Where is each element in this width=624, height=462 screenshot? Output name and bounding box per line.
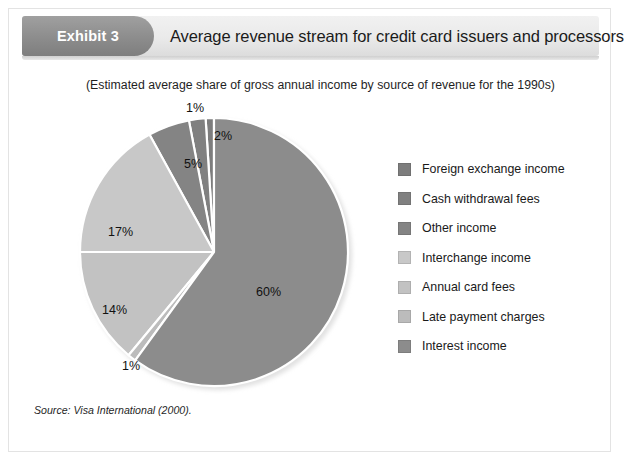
legend-item-label: Interchange income [422,251,531,265]
legend-swatch-icon [398,222,411,235]
legend-item[interactable]: Interchange income [398,250,565,266]
chart-legend: Foreign exchange incomeCash withdrawal f… [398,161,565,368]
pie-slice-label: 5% [184,157,202,171]
exhibit-badge-label: Exhibit 3 [57,28,119,44]
legend-item[interactable]: Other income [398,220,565,236]
legend-swatch-icon [398,163,411,176]
legend-swatch-icon [398,310,411,323]
source-text: Visa International (2000). [73,404,191,416]
exhibit-badge: Exhibit 3 [22,16,154,56]
pie-chart: 1%2%5%17%14%1%60% [74,107,364,397]
pie-chart-svg [74,107,364,397]
pie-slice-label: 1% [186,101,204,115]
header-underline [22,56,599,60]
legend-item-label: Annual card fees [422,280,515,294]
legend-item[interactable]: Foreign exchange income [398,161,565,177]
legend-item[interactable]: Interest income [398,338,565,354]
pie-slice-label: 14% [102,303,127,317]
legend-swatch-icon [398,192,411,205]
legend-item-label: Late payment charges [422,310,545,324]
legend-item[interactable]: Late payment charges [398,309,565,325]
legend-item-label: Foreign exchange income [422,162,565,176]
pie-slice-label: 1% [122,359,140,373]
chart-area: 1%2%5%17%14%1%60% Foreign exchange incom… [14,95,604,395]
legend-item-label: Other income [422,221,496,235]
legend-item[interactable]: Annual card fees [398,279,565,295]
page-title: Average revenue stream for credit card i… [170,16,624,56]
legend-swatch-icon [398,251,411,264]
chart-subtitle: (Estimated average share of gross annual… [86,78,555,92]
source-prefix: Source: [34,404,71,416]
legend-swatch-icon [398,340,411,353]
legend-item-label: Interest income [422,339,507,353]
pie-slice-label: 17% [108,225,133,239]
pie-slice-label: 60% [256,285,281,299]
legend-item-label: Cash withdrawal fees [422,192,540,206]
source-note: Source: Visa International (2000). [34,404,192,416]
pie-slice-label: 2% [214,129,232,143]
legend-item[interactable]: Cash withdrawal fees [398,191,565,207]
legend-swatch-icon [398,281,411,294]
